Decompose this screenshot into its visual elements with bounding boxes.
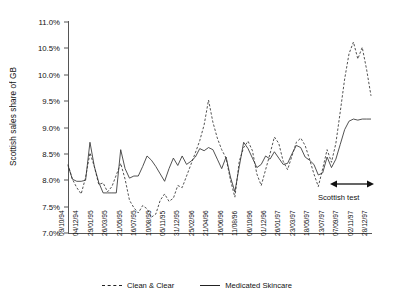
y-axis-tick-label: 9.0%	[16, 123, 60, 132]
y-axis-tick-label: 8.0%	[16, 176, 60, 185]
x-axis-tick-label: 13/07/97	[318, 210, 325, 236]
series-line-clean-clear	[68, 42, 371, 217]
scottish-test-label: Scottish test	[318, 193, 359, 202]
y-axis-title: Scottish sales share of GB	[2, 0, 24, 233]
legend-item-clean-and-clear: Clean & Clear	[102, 281, 174, 290]
x-axis-tick-label: 11/08/96	[231, 211, 238, 236]
y-axis-tick-label: 8.5%	[16, 149, 60, 158]
legend-label-medicated-skincare: Medicated Skincare	[225, 281, 292, 290]
legend-swatch-dashed-icon	[102, 285, 122, 286]
x-axis-tick-label: 26/01/97	[274, 210, 281, 236]
x-axis-tick-label: 21/04/96	[202, 210, 209, 236]
y-axis-tick-label: 7.5%	[16, 202, 60, 211]
x-axis-tick-label: 16/07/95	[130, 210, 137, 236]
x-axis-tick-label: 25/02/96	[188, 210, 195, 236]
y-axis-tick-label: 10.5%	[16, 44, 60, 53]
x-axis-tick-label: 26/03/95	[101, 210, 108, 236]
x-axis-tick-label: 28/12/97	[361, 210, 368, 236]
x-axis-tick-label: 01/12/96	[260, 210, 267, 236]
legend-swatch-solid-icon	[200, 285, 220, 286]
y-axis-tick-label: 9.5%	[16, 97, 60, 106]
scottish-test-arrow-icon	[330, 178, 374, 190]
y-axis-tick-label: 11.0%	[16, 18, 60, 27]
x-axis-tick-label: 07/09/97	[332, 210, 339, 236]
legend-label-clean-and-clear: Clean & Clear	[127, 281, 174, 290]
legend-item-medicated-skincare: Medicated Skincare	[200, 281, 292, 290]
chart-legend: Clean & Clear Medicated Skincare	[0, 281, 394, 290]
x-axis-tick-label: 31/12/95	[173, 210, 180, 236]
x-axis-tick-label: 21/05/95	[116, 210, 123, 236]
x-axis-tick-label: 18/05/97	[303, 210, 310, 236]
x-axis-tick-label: 16/06/96	[217, 210, 224, 236]
x-axis-tick-label: 23/03/97	[289, 210, 296, 236]
y-axis-tick-label: 10.0%	[16, 70, 60, 79]
x-axis-tick-label: 10/08/95	[145, 210, 152, 236]
y-axis-tick-label: 7.0%	[16, 229, 60, 238]
series-line-medicated-skincare	[68, 119, 371, 193]
x-axis-tick-label: 04/12/94	[72, 210, 79, 236]
chart-root: Scottish sales share of GB 11.0%10.5%10.…	[0, 0, 394, 300]
x-axis-tick-label: 06/10/96	[246, 210, 253, 236]
x-axis-tick-label: 09/10/94	[58, 210, 65, 236]
x-axis-tick-label: 29/01/95	[87, 210, 94, 236]
x-axis-tick-label: 02/11/97	[347, 211, 354, 236]
x-axis-tick-label: 05/11/95	[159, 211, 166, 236]
